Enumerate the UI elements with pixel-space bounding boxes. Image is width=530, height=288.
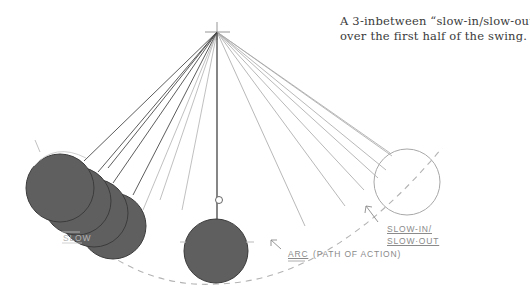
strings-right-light: [217, 32, 392, 226]
label-slow-in: SLOW-IN/: [387, 224, 432, 234]
bob-extreme-right: [374, 149, 440, 215]
string-loop: [216, 197, 223, 204]
caption-line-1: A 3-inbetween “slow-in/slow-out”: [340, 14, 530, 29]
label-slow-out: SLOW·OUT: [387, 236, 439, 246]
caption: A 3-inbetween “slow-in/slow-out” over th…: [340, 14, 530, 44]
bob-rest: [184, 219, 248, 283]
arrow-slow-in-icon: [365, 206, 378, 222]
arrow-arc-icon: [271, 240, 281, 249]
strings-left-light: [143, 32, 217, 210]
arc-left-tick: [35, 140, 40, 152]
label-slow-partial: SLOW: [63, 233, 91, 243]
label-arc-note: (PATH OF ACTION): [313, 249, 401, 259]
caption-line-2: over the first half of the swing.: [340, 29, 530, 44]
strings-left-dark: [84, 32, 217, 195]
string-right-extreme: [217, 32, 390, 153]
label-arc: ARC: [288, 249, 308, 259]
